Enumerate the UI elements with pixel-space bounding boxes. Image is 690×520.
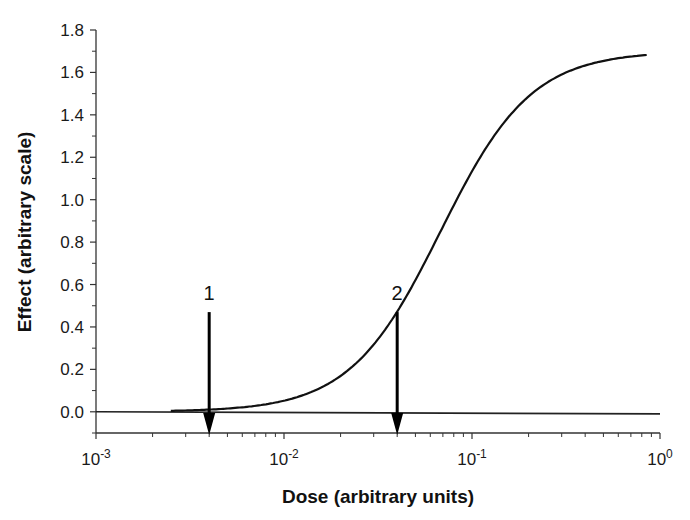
x-axis: 10-310-210-1100: [81, 433, 673, 469]
x-tick-label: 10-3: [81, 447, 111, 469]
y-tick-label: 0.2: [60, 360, 84, 379]
arrow-2-label: 2: [392, 282, 403, 304]
y-tick-label: 1.6: [60, 63, 84, 82]
x-tick-label: 10-2: [269, 447, 299, 469]
y-tick-label: 0.0: [60, 403, 84, 422]
plot-area: 12: [96, 55, 660, 435]
x-tick-label: 100: [647, 447, 673, 469]
x-tick-label: 10-1: [457, 447, 487, 469]
y-axis-title: Effect (arbitrary scale): [14, 132, 35, 333]
y-axis: 0.00.20.40.60.81.01.21.41.61.8: [60, 21, 96, 433]
y-tick-label: 0.8: [60, 233, 84, 252]
baseline-line: [96, 412, 660, 414]
dose-response-curve: [171, 55, 647, 411]
arrow-2-head: [391, 413, 403, 435]
y-tick-label: 1.0: [60, 191, 84, 210]
y-tick-label: 1.8: [60, 21, 84, 40]
y-tick-label: 1.2: [60, 148, 84, 167]
arrow-1-label: 1: [204, 282, 215, 304]
arrow-1-head: [203, 413, 215, 435]
y-tick-label: 1.4: [60, 106, 84, 125]
x-axis-title: Dose (arbitrary units): [282, 486, 474, 507]
y-tick-label: 0.4: [60, 318, 84, 337]
dose-response-chart: 0.00.20.40.60.81.01.21.41.61.8 10-310-21…: [0, 0, 690, 520]
y-tick-label: 0.6: [60, 276, 84, 295]
